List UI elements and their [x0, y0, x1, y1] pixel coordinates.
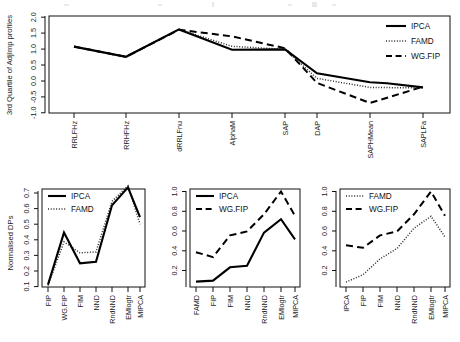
- top-panel-legend: IPCA FAMD WG.FIP: [386, 22, 441, 61]
- bottom-left-panel-y-axis: 0.7 0.6 0.5 0.4 0.3 0.2 0.1: [22, 188, 38, 292]
- top-panel-ytick-0: 2.0: [29, 12, 38, 22]
- top-panel-frame: [49, 16, 450, 113]
- bottom-middle-xtick-EMlogtr: EMlogtr: [277, 294, 286, 319]
- bottom-right-xtick-RndNND: RndNND: [410, 295, 419, 324]
- bottom-left-ytick-5: 0.2: [22, 266, 31, 276]
- bottom-left-series-famd: [48, 186, 140, 286]
- bottom-middle-ytick-0: 1.0: [170, 187, 179, 197]
- top-panel-xtick-dRRLFnu: dRRLFnu: [175, 121, 184, 152]
- bottom-left-ytick-3: 0.4: [22, 235, 31, 245]
- bottom-middle-xtick-MIPCA: MIPCA: [291, 295, 300, 318]
- top-panel-xtick-AlphaM: AlphaM: [228, 121, 237, 145]
- bottom-middle-ytick-4: 0.2: [170, 266, 179, 276]
- bottom-right-series-wgfip: [346, 192, 445, 248]
- bl-legend-label-ipca: IPCA: [71, 192, 91, 201]
- bottom-middle-series-ipca: [196, 219, 295, 281]
- bottom-middle-panel-legend: IPCA WG.FIP: [196, 192, 249, 214]
- top-panel-ytick-5: -0.5: [29, 91, 38, 103]
- bottom-left-ytick-0: 0.7: [22, 188, 31, 198]
- bottom-right-xtick-FIP: FIP: [359, 295, 368, 306]
- top-panel-series-ipca: [74, 29, 423, 87]
- bottom-right-ytick-3: 0.4: [320, 246, 329, 256]
- br-legend-label-wgfip: WG.FIP: [369, 205, 399, 214]
- top-panel-xtick-SAPHMean: SAPHMean: [366, 121, 375, 159]
- bottom-left-xtick-NND: NND: [92, 295, 101, 311]
- bottom-right-series-famd: [346, 216, 445, 282]
- bottom-left-ytick-4: 0.3: [22, 250, 31, 260]
- top-panel-ytick-2: 1.0: [29, 44, 38, 54]
- top-panel-ytick-1: 1.5: [29, 28, 38, 38]
- bottom-middle-xtick-NND: NND: [243, 295, 252, 311]
- bottom-right-xtick-MIPCA: MIPCA: [441, 295, 450, 318]
- bm-legend-label-ipca: IPCA: [219, 192, 239, 201]
- bottom-right-panel-frame: [340, 189, 450, 287]
- bottom-middle-ytick-1: 0.8: [170, 206, 179, 216]
- bottom-middle-xtick-FAMD: FAMD: [192, 295, 201, 315]
- bottom-left-xtick-RndNND: RndNND: [108, 295, 117, 324]
- bl-legend-label-famd: FAMD: [71, 205, 94, 214]
- bottom-middle-xtick-FIP: FIP: [209, 295, 218, 306]
- top-artifact-row: [64, 2, 336, 7]
- bottom-right-ytick-4: 0.2: [320, 266, 329, 276]
- legend-label-famd: FAMD: [411, 37, 434, 46]
- br-legend-label-famd: FAMD: [369, 192, 392, 201]
- bottom-left-series-ipca: [48, 187, 140, 284]
- bottom-middle-panel-x-axis: FAMD FIP FIM NND RndNND EMlogtr MIPCA: [192, 287, 300, 324]
- bottom-left-panel-legend: IPCA FAMD: [48, 192, 94, 214]
- bottom-right-panel-y-axis: 1.0 0.8 0.6 0.4 0.2: [320, 187, 336, 288]
- bottom-right-ytick-2: 0.6: [320, 226, 329, 236]
- bottom-right-ytick-0: 1.0: [320, 187, 329, 197]
- bottom-middle-panel-frame: [190, 189, 300, 287]
- bottom-right-ytick-1: 0.8: [320, 206, 329, 216]
- bottom-left-xtick-FIP: FIP: [44, 295, 53, 306]
- bottom-middle-xtick-RndNND: RndNND: [260, 295, 269, 324]
- bottom-left-panel-y-axis-label: Normalised DPs: [6, 215, 15, 270]
- top-panel-x-axis: RRLFHz RRHFHz dRRLFnu AlphaM SAP DAP SAP…: [70, 113, 428, 159]
- top-panel-series-wgfip: [74, 30, 423, 103]
- bottom-left-panel: Normalised DPs 0.7 0.6 0.5 0.4 0.3 0.2 0…: [6, 186, 145, 324]
- top-panel-xtick-DAP: DAP: [313, 121, 322, 136]
- legend-label-ipca: IPCA: [411, 22, 431, 31]
- bottom-left-xtick-EMlogtr: EMlogtr: [124, 294, 133, 319]
- top-panel-xtick-SAP: SAP: [281, 121, 290, 136]
- top-panel-y-axis: 2.0 1.5 1.0 0.5 0.0 -0.5 -1.0: [29, 12, 45, 119]
- bottom-right-panel-legend: FAMD WG.FIP: [346, 192, 399, 214]
- bottom-middle-ytick-3: 0.4: [170, 246, 179, 256]
- bottom-left-xtick-WGFIP: WG.FIP: [60, 295, 69, 321]
- bottom-middle-panel: 1.0 0.8 0.6 0.4 0.2 FAMD FIP FIM NND Rnd…: [170, 187, 300, 324]
- top-panel-ytick-3: 0.5: [29, 60, 38, 70]
- bottom-right-xtick-EMlogtr: EMlogtr: [427, 294, 436, 319]
- bottom-left-xtick-MIPCA: MIPCA: [136, 295, 145, 318]
- multi-panel-chart: 3rd Quartile of AdjImp profiles 2.0 1.5 …: [0, 0, 460, 342]
- bottom-right-panel: 1.0 0.8 0.6 0.4 0.2 IPCA FIP FIM NND Rnd…: [320, 187, 450, 324]
- bottom-middle-series-wgfip: [196, 192, 295, 258]
- bottom-right-xtick-IPCA: IPCA: [342, 295, 351, 312]
- bottom-left-xtick-FIM: FIM: [76, 295, 85, 307]
- top-panel-xtick-RRLFHz: RRLFHz: [70, 121, 79, 149]
- bottom-right-xtick-FIM: FIM: [376, 295, 385, 307]
- bottom-middle-xtick-FIM: FIM: [226, 295, 235, 307]
- bottom-middle-ytick-2: 0.6: [170, 226, 179, 236]
- bottom-right-xtick-NND: NND: [393, 295, 402, 311]
- bottom-left-ytick-2: 0.5: [22, 219, 31, 229]
- legend-label-wgfip: WG.FIP: [411, 52, 441, 61]
- bottom-left-panel-frame: [42, 189, 145, 287]
- top-panel-xtick-RRHFHz: RRHFHz: [122, 121, 131, 150]
- top-panel-ytick-4: 0.0: [29, 76, 38, 86]
- top-panel-ytick-6: -1.0: [29, 107, 38, 119]
- figure-canvas: 3rd Quartile of AdjImp profiles 2.0 1.5 …: [0, 0, 460, 342]
- bottom-left-ytick-6: 0.1: [22, 282, 31, 292]
- top-panel-y-axis-label: 3rd Quartile of AdjImp profiles: [5, 15, 14, 115]
- bottom-left-ytick-1: 0.6: [22, 204, 31, 214]
- bottom-right-panel-x-axis: IPCA FIP FIM NND RndNND EMlogtr MIPCA: [342, 287, 450, 324]
- top-panel: 3rd Quartile of AdjImp profiles 2.0 1.5 …: [5, 12, 450, 158]
- bottom-left-panel-x-axis: FIP WG.FIP FIM NND RndNND EMlogtr MIPCA: [44, 287, 145, 324]
- top-panel-xtick-SAPLFa: SAPLFa: [419, 121, 428, 148]
- bm-legend-label-wgfip: WG.FIP: [219, 205, 249, 214]
- top-panel-series-famd: [74, 29, 423, 88]
- bottom-middle-panel-y-axis: 1.0 0.8 0.6 0.4 0.2: [170, 187, 186, 288]
